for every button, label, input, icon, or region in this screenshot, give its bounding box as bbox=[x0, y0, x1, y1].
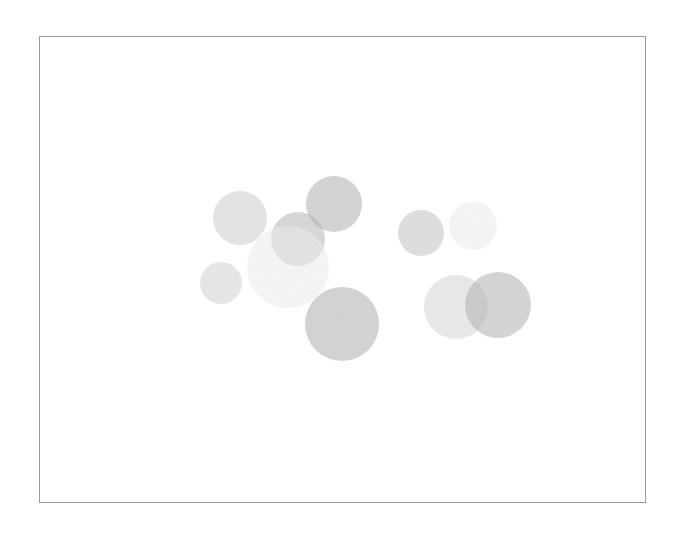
scatter-bubble bbox=[200, 262, 242, 304]
scatter-bubble bbox=[465, 272, 531, 338]
scatter-bubble bbox=[449, 202, 497, 250]
scatter-bubble bbox=[398, 210, 444, 256]
scatter-bubble bbox=[305, 287, 379, 361]
scatter-bubble bbox=[247, 226, 329, 308]
bubble-scatter-canvas bbox=[0, 0, 684, 534]
figure-root bbox=[0, 0, 684, 534]
scatter-bubble bbox=[213, 191, 267, 245]
bubble-layer bbox=[200, 176, 531, 361]
